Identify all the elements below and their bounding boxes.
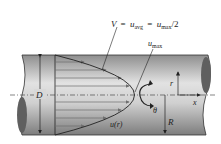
pipe-flow-diagram: D V = uavg = umax/2 umax θ r x R u xyxy=(0,0,221,144)
profile-label: u(r) xyxy=(110,120,123,129)
diameter-label: D xyxy=(35,90,43,100)
radius-label: R xyxy=(167,117,174,127)
avg-velocity-label: V = uavg = umax/2 xyxy=(111,19,179,31)
pipe-end-cap-left xyxy=(17,97,27,133)
umax-label: umax xyxy=(148,39,162,49)
x-axis-label: x xyxy=(192,98,197,107)
theta-label: θ xyxy=(153,106,157,115)
pipe-end-cap-right xyxy=(201,57,211,93)
